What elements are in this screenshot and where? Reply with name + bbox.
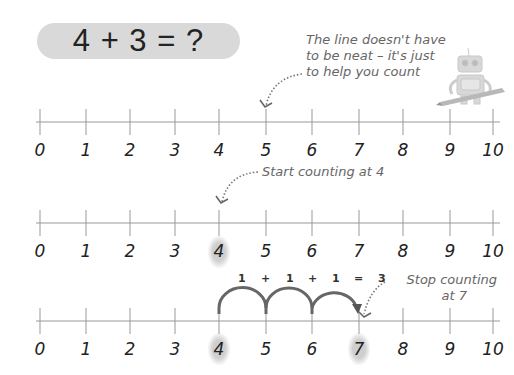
- label-10: 10: [478, 339, 508, 359]
- label-0: 0: [25, 339, 55, 359]
- label-3: 3: [160, 339, 190, 359]
- label-10: 10: [478, 241, 508, 261]
- label-9: 9: [435, 241, 465, 261]
- equals-sign: =: [354, 272, 363, 285]
- label-9: 9: [435, 339, 465, 359]
- label-2: 2: [115, 140, 145, 160]
- jump-total: 3: [378, 272, 386, 285]
- label-7: 7: [344, 339, 374, 359]
- label-2: 2: [115, 241, 145, 261]
- jump-arcs: [219, 288, 356, 314]
- plus-sign: +: [308, 272, 317, 285]
- label-4: 4: [204, 140, 234, 160]
- label-8: 8: [388, 339, 418, 359]
- robot-with-pencil-icon: [436, 48, 505, 106]
- label-4: 4: [204, 339, 234, 359]
- label-1: 1: [71, 140, 101, 160]
- label-5: 5: [251, 140, 281, 160]
- label-3: 3: [160, 241, 190, 261]
- label-5: 5: [251, 339, 281, 359]
- label-6: 6: [297, 140, 327, 160]
- label-0: 0: [25, 241, 55, 261]
- number-lines-drawing: [0, 0, 514, 375]
- label-6: 6: [297, 339, 327, 359]
- label-8: 8: [388, 140, 418, 160]
- jump-term-1: 1: [238, 272, 246, 285]
- label-9: 9: [435, 140, 465, 160]
- label-0: 0: [25, 140, 55, 160]
- label-7: 7: [344, 140, 374, 160]
- label-1: 1: [71, 241, 101, 261]
- label-8: 8: [388, 241, 418, 261]
- jump-term-2: 1: [286, 272, 294, 285]
- plus-sign: +: [261, 272, 270, 285]
- label-7: 7: [344, 241, 374, 261]
- label-2: 2: [115, 339, 145, 359]
- label-5: 5: [251, 241, 281, 261]
- label-10: 10: [478, 140, 508, 160]
- label-4: 4: [204, 241, 234, 261]
- jump-term-3: 1: [332, 272, 340, 285]
- label-6: 6: [297, 241, 327, 261]
- label-3: 3: [160, 140, 190, 160]
- label-1: 1: [71, 339, 101, 359]
